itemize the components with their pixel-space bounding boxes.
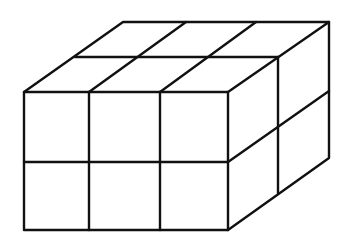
right-face (228, 22, 329, 230)
front-face (24, 92, 228, 230)
cube-block-diagram (0, 0, 346, 244)
top-face (24, 22, 329, 92)
